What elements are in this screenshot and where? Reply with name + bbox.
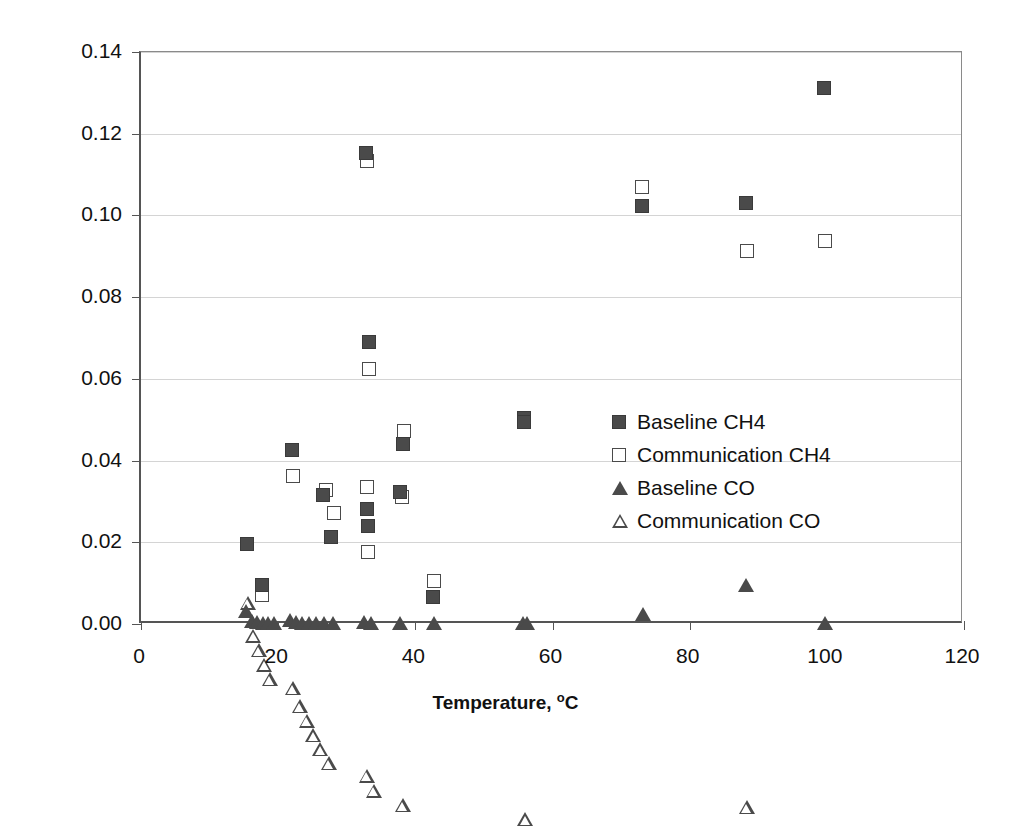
x-tick-label: 0 bbox=[104, 645, 174, 666]
chart-legend: Baseline CH4Communication CH4Baseline CO… bbox=[612, 405, 902, 537]
data-point bbox=[517, 812, 533, 826]
data-point bbox=[316, 488, 330, 502]
y-tick-mark bbox=[132, 215, 141, 216]
data-point bbox=[635, 199, 649, 213]
data-point bbox=[362, 335, 376, 349]
data-point bbox=[396, 437, 410, 451]
legend-marker-open-triangle bbox=[612, 514, 634, 528]
y-tick-label: 0.02 bbox=[4, 530, 122, 551]
data-point bbox=[635, 180, 649, 194]
data-point-filled-square bbox=[612, 415, 626, 429]
data-point bbox=[397, 424, 411, 438]
y-tick-label: 0.08 bbox=[4, 285, 122, 306]
data-point bbox=[517, 411, 531, 425]
y-tick-label: 0.12 bbox=[4, 122, 122, 143]
y-tick-mark bbox=[132, 134, 141, 135]
legend-marker-open-square bbox=[612, 448, 634, 462]
data-point bbox=[359, 769, 375, 783]
data-point bbox=[361, 545, 375, 559]
x-tick-mark bbox=[415, 621, 416, 630]
x-tick-label: 120 bbox=[927, 645, 997, 666]
plot-area bbox=[139, 51, 962, 623]
x-axis-title: Temperature, oC bbox=[0, 690, 1011, 714]
data-point bbox=[240, 537, 254, 551]
legend-label: Communication CO bbox=[637, 510, 820, 531]
y-tick-mark bbox=[132, 542, 141, 543]
data-point bbox=[366, 784, 382, 798]
gridline bbox=[141, 297, 961, 298]
data-point bbox=[319, 483, 333, 497]
data-point bbox=[266, 616, 282, 630]
data-point bbox=[426, 616, 442, 630]
data-point bbox=[738, 578, 754, 592]
y-tick-label: 0.06 bbox=[4, 367, 122, 388]
data-point bbox=[392, 616, 408, 630]
data-point bbox=[360, 502, 374, 516]
y-tick-label: 0.04 bbox=[4, 449, 122, 470]
data-point bbox=[426, 590, 440, 604]
y-tick-mark bbox=[132, 52, 141, 53]
x-tick-label: 40 bbox=[378, 645, 448, 666]
legend-item: Baseline CO bbox=[612, 471, 902, 504]
y-tick-label: 0.00 bbox=[4, 612, 122, 633]
data-point bbox=[356, 615, 372, 629]
data-point bbox=[260, 616, 276, 630]
legend-item: Communication CO bbox=[612, 504, 902, 537]
data-point bbox=[739, 800, 755, 814]
data-point bbox=[321, 756, 337, 770]
gridline bbox=[141, 379, 961, 380]
legend-label: Baseline CO bbox=[637, 477, 755, 498]
data-point bbox=[308, 616, 324, 630]
data-point bbox=[395, 490, 409, 504]
data-point bbox=[818, 234, 832, 248]
x-axis-title-text: Temperature, bbox=[433, 692, 557, 713]
data-point bbox=[294, 616, 310, 630]
data-point bbox=[245, 629, 261, 643]
data-point bbox=[362, 362, 376, 376]
y-tick-mark bbox=[132, 297, 141, 298]
data-point bbox=[817, 616, 833, 630]
legend-marker-filled-square bbox=[612, 415, 634, 429]
data-point bbox=[359, 146, 373, 160]
data-point bbox=[249, 615, 265, 629]
x-tick-label: 100 bbox=[790, 645, 860, 666]
x-tick-mark bbox=[278, 621, 279, 630]
x-tick-mark bbox=[553, 621, 554, 630]
data-point bbox=[517, 415, 531, 429]
x-tick-label: 60 bbox=[516, 645, 586, 666]
data-point bbox=[255, 578, 269, 592]
data-point bbox=[240, 596, 256, 610]
legend-item: Communication CH4 bbox=[612, 438, 902, 471]
data-point bbox=[316, 616, 332, 630]
data-point bbox=[325, 616, 341, 630]
data-point bbox=[286, 469, 300, 483]
data-point bbox=[244, 614, 260, 628]
y-tick-mark bbox=[132, 624, 141, 625]
data-point bbox=[282, 613, 298, 627]
data-point bbox=[361, 519, 375, 533]
x-tick-mark bbox=[690, 621, 691, 630]
x-tick-label: 80 bbox=[653, 645, 723, 666]
data-point bbox=[360, 154, 374, 168]
gridline bbox=[141, 542, 961, 543]
data-point-filled-triangle bbox=[612, 481, 628, 495]
data-point bbox=[740, 244, 754, 258]
data-point bbox=[393, 485, 407, 499]
legend-marker-filled-triangle bbox=[612, 481, 634, 495]
gridline bbox=[141, 134, 961, 135]
data-point bbox=[327, 506, 341, 520]
x-tick-label: 20 bbox=[241, 645, 311, 666]
data-point-open-triangle bbox=[612, 514, 628, 528]
data-point bbox=[255, 616, 271, 630]
data-point bbox=[312, 742, 328, 756]
legend-label: Baseline CH4 bbox=[637, 411, 765, 432]
data-point bbox=[427, 574, 441, 588]
data-point bbox=[360, 480, 374, 494]
data-point-open-square bbox=[612, 448, 626, 462]
gridline bbox=[141, 215, 961, 216]
y-tick-label: 0.10 bbox=[4, 203, 122, 224]
x-axis-title-unit: C bbox=[565, 692, 579, 713]
x-tick-mark bbox=[964, 621, 965, 630]
data-point bbox=[305, 728, 321, 742]
